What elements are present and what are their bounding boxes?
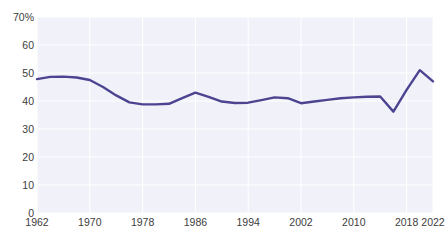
y-axis-tick-label: 70% <box>0 12 34 22</box>
y-axis-tick-label: 40 <box>0 96 34 106</box>
y-axis-tick-label: 20 <box>0 152 34 162</box>
x-axis-tick-label: 1970 <box>78 216 101 228</box>
y-axis-tick-label: 10 <box>0 180 34 190</box>
x-axis-tick-label: 1978 <box>131 216 154 228</box>
x-axis-tick-label: 1986 <box>184 216 207 228</box>
x-axis-tick-label: 2002 <box>289 216 312 228</box>
y-axis-tick-label: 50 <box>0 68 34 78</box>
x-axis-tick-label: 1962 <box>25 216 48 228</box>
x-axis-tick-label: 2022 <box>421 216 444 228</box>
x-axis-labels: 196219701978198619942002201020182022 <box>37 216 437 234</box>
x-axis-tick-label: 1994 <box>237 216 260 228</box>
plot-area <box>37 17 433 213</box>
y-axis-tick-label: 30 <box>0 124 34 134</box>
x-axis-tick-label: 2010 <box>342 216 365 228</box>
x-axis-tick-label: 2018 <box>395 216 418 228</box>
chart-title-strip <box>0 0 442 10</box>
y-axis-labels: 70%6050403020100 <box>0 0 34 246</box>
series-polyline <box>37 70 433 111</box>
data-series-line <box>37 17 433 213</box>
y-axis-tick-label: 60 <box>0 40 34 50</box>
